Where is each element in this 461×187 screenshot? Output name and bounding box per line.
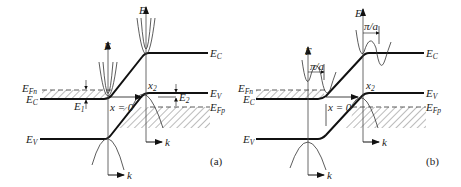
label-pi-a-right: π/a — [364, 20, 379, 32]
label-axis-e-left: E — [304, 45, 312, 57]
label-ec-left: EC — [242, 93, 256, 107]
label-ec-right: EC — [209, 47, 223, 61]
label-efp: EFp — [425, 101, 441, 115]
ek-conduction-right — [356, 30, 391, 65]
label-x2: x2 — [147, 79, 157, 93]
label-e1: E1 — [73, 100, 84, 114]
label-axis-e-right: E — [354, 7, 362, 19]
label-axis-k-left: k — [127, 169, 133, 181]
label-ev-left: EV — [25, 133, 39, 147]
label-efp: EFp — [209, 101, 225, 115]
label-axis-k-right: k — [382, 136, 388, 148]
panel-a: EFn EC EV EC EV EFp E1 E2 x = 0 x2 E E k… — [21, 4, 225, 181]
panel-b: EFn EC EV EC EV EFp π/a π/a x = 0 x2 E E… — [237, 7, 441, 181]
panel-label-b: (b) — [426, 155, 439, 168]
label-x0: x = 0 — [109, 101, 134, 113]
label-pi-a-left: π/a — [310, 60, 325, 72]
electron-fill-region — [42, 90, 110, 99]
label-axis-e-right: E — [138, 4, 146, 16]
electron-fill-region — [256, 90, 324, 99]
label-axis-k-right: k — [165, 136, 171, 148]
panel-label-a: (a) — [210, 155, 223, 168]
label-ev-left: EV — [242, 133, 256, 147]
label-axis-e-left: E — [103, 40, 111, 52]
label-ev-right: EV — [209, 87, 223, 101]
label-axis-k-left: k — [327, 169, 333, 181]
label-x2: x2 — [365, 79, 375, 93]
label-ec-right: EC — [425, 47, 439, 61]
band-diagram: EFn EC EV EC EV EFp E1 E2 x = 0 x2 E E k… — [0, 0, 461, 187]
label-ev-right: EV — [425, 87, 439, 101]
hole-fill-region — [344, 107, 426, 128]
label-x0: x = 0 — [327, 101, 352, 113]
